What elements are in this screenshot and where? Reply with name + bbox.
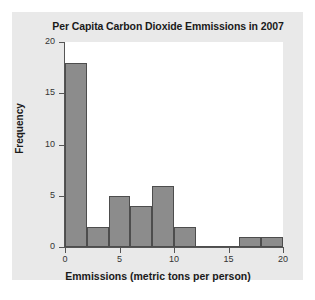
- y-tick-label: 10: [33, 139, 55, 149]
- x-tick-mark: [120, 248, 121, 253]
- histogram-bar: [87, 227, 109, 248]
- y-tick-mark: [59, 42, 64, 43]
- x-axis-label: Emmissions (metric tons per person): [14, 270, 302, 282]
- histogram-bar: [109, 196, 131, 247]
- histogram-bar: [130, 206, 152, 247]
- histogram-bar: [196, 246, 218, 247]
- x-tick-mark: [229, 248, 230, 253]
- x-tick-mark: [174, 248, 175, 253]
- histogram-bar: [65, 63, 87, 248]
- histogram-bar: [174, 227, 196, 248]
- histogram-bar: [152, 186, 174, 248]
- histogram-figure: Per Capita Carbon Dioxide Emmissions in …: [0, 0, 315, 300]
- x-tick-label: 15: [217, 254, 241, 264]
- y-tick-label: 15: [33, 87, 55, 97]
- y-tick-mark: [59, 93, 64, 94]
- y-tick-mark: [59, 145, 64, 146]
- x-tick-label: 5: [108, 254, 132, 264]
- histogram-bar: [218, 246, 240, 247]
- x-tick-mark: [283, 248, 284, 253]
- y-tick-label: 20: [33, 36, 55, 46]
- x-tick-label: 10: [162, 254, 186, 264]
- y-tick-mark: [59, 247, 64, 248]
- y-tick-label: 0: [33, 241, 55, 251]
- chart-title: Per Capita Carbon Dioxide Emmissions in …: [34, 20, 302, 32]
- x-tick-label: 0: [53, 254, 77, 264]
- y-axis-label: Frequency: [14, 89, 25, 169]
- y-tick-label: 5: [33, 190, 55, 200]
- histogram-bar: [239, 237, 261, 247]
- x-tick-label: 20: [271, 254, 295, 264]
- plot-area: [65, 42, 283, 247]
- histogram-bar: [261, 237, 283, 247]
- x-tick-mark: [65, 248, 66, 253]
- y-tick-mark: [59, 196, 64, 197]
